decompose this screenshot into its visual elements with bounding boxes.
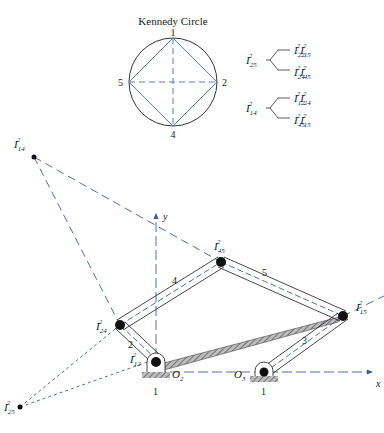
ground-1-right: 1 [261,386,266,397]
kennedy-title: Kennedy Circle [138,15,207,27]
svg-text:I222I152: I222I152 [293,42,311,59]
label-i45: I452 [213,238,225,255]
label-o2: O2 [172,368,184,383]
point-i15 [338,311,348,321]
point-i45 [216,257,226,267]
joints [18,155,349,410]
svg-text:I252: I252 [245,52,257,69]
circle-point-1: 1 [171,27,176,38]
link-4-label: 4 [172,275,177,286]
point-i14 [32,155,37,160]
point-i24 [115,320,125,330]
label-i25: I252 [3,399,15,416]
label-i14: I142 [13,136,25,153]
kennedy-circle: Kennedy Circle 1 2 4 5 [118,15,227,140]
link-2-label: 2 [128,339,133,350]
derivation-tree-i25: I252 I222I152 I242I452 [245,42,311,81]
svg-text:I122I242: I122I242 [293,90,311,107]
link-3-label: 3 [302,335,307,346]
circle-point-4: 4 [171,129,176,140]
label-o3: O3 [234,368,246,383]
link-5-label: 5 [262,267,267,278]
ground-1-left: 1 [153,386,158,397]
svg-text:I142: I142 [245,100,257,117]
kennedy-diagram: Kennedy Circle 1 2 4 5 I252 I222I152 I24… [0,0,384,433]
circle-point-5: 5 [118,77,123,88]
y-axis-label: y [162,211,168,222]
label-i12: I122 [129,351,141,368]
label-i24: I242 [95,318,107,335]
construction-lines [20,157,384,407]
svg-text:I242I452: I242I452 [293,64,311,81]
x-axis-label: x [375,378,381,389]
hatched-link [160,316,343,370]
point-i25 [18,405,23,410]
svg-text:I452I152: I452I152 [293,112,311,129]
label-i15: I152 [355,299,367,316]
derivation-tree-i14: I142 I122I242 I452I152 [245,90,311,129]
circle-point-2: 2 [222,77,227,88]
